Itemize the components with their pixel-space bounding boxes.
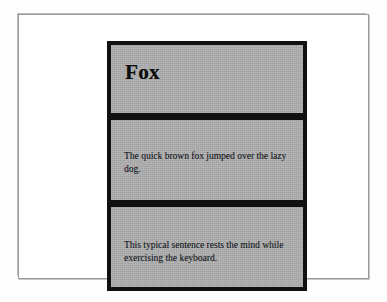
body-panel-2-text: This typical sentence rests the mind whi… — [111, 207, 303, 264]
body-panel-1-text: The quick brown fox jumped over the lazy… — [111, 120, 303, 175]
panel-stack: Fox The quick brown fox jumped over the … — [107, 41, 307, 291]
page-frame: Fox The quick brown fox jumped over the … — [18, 14, 369, 279]
body-panel-2: This typical sentence rests the mind whi… — [107, 203, 307, 291]
body-panel-1: The quick brown fox jumped over the lazy… — [107, 116, 307, 204]
title-panel: Fox — [107, 41, 307, 117]
scanned-page: Fox The quick brown fox jumped over the … — [0, 0, 387, 302]
page-title: Fox — [111, 45, 303, 83]
